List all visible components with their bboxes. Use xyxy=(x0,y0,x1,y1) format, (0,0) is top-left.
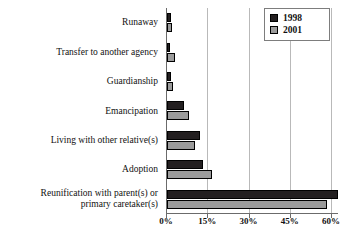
bar-2001 xyxy=(167,170,212,179)
legend-swatch-icon xyxy=(270,14,278,22)
legend-label: 1998 xyxy=(283,13,302,24)
category-label: Runaway xyxy=(122,17,158,28)
chart-legend: 19982001 xyxy=(264,8,330,41)
category-label-line: Reunification with parent(s) or xyxy=(41,188,158,199)
bar-group xyxy=(167,67,338,96)
axis-tick-label: 60% xyxy=(322,216,340,226)
bar-group xyxy=(167,126,338,155)
bar-group xyxy=(167,96,338,125)
axis-tick-label: 15% xyxy=(198,216,216,226)
bar-group xyxy=(167,185,338,214)
bar-1998 xyxy=(167,72,171,81)
bar-1998 xyxy=(167,13,171,22)
bar-2001 xyxy=(167,111,189,120)
category-label: Guardianship xyxy=(107,76,158,87)
category-axis-labels: RunawayTransfer to another agencyGuardia… xyxy=(0,8,162,214)
bar-2001 xyxy=(167,53,175,62)
bar-2001 xyxy=(167,200,327,209)
category-label: Emancipation xyxy=(105,106,158,117)
bar-1998 xyxy=(167,160,203,169)
legend-item: 1998 xyxy=(270,12,324,24)
bar-1998 xyxy=(167,190,338,199)
category-label-line: Emancipation xyxy=(105,106,158,117)
axis-tick-label: 30% xyxy=(240,216,258,226)
bar-group xyxy=(167,155,338,184)
value-axis-tick-labels: 0%15%30%45%60% xyxy=(166,216,338,232)
category-label-line: primary caretaker(s) xyxy=(41,199,158,210)
category-label: Adoption xyxy=(122,164,158,175)
bar-1998 xyxy=(167,101,184,110)
category-label-line: Transfer to another agency xyxy=(56,47,158,58)
category-label-line: Guardianship xyxy=(107,76,158,87)
value-axis-line xyxy=(166,213,338,214)
bar-1998 xyxy=(167,131,200,140)
bar-2001 xyxy=(167,23,172,32)
axis-tick-label: 0% xyxy=(159,216,173,226)
bar-2001 xyxy=(167,82,173,91)
category-label-line: Runaway xyxy=(122,17,158,28)
legend-swatch-icon xyxy=(270,26,278,34)
bar-chart: RunawayTransfer to another agencyGuardia… xyxy=(0,0,343,239)
bar-1998 xyxy=(167,43,170,52)
axis-tick-label: 45% xyxy=(281,216,299,226)
category-label: Living with other relative(s) xyxy=(51,135,158,146)
legend-item: 2001 xyxy=(270,24,324,36)
category-label-line: Adoption xyxy=(122,164,158,175)
bar-group xyxy=(167,37,338,66)
category-label-line: Living with other relative(s) xyxy=(51,135,158,146)
category-label: Reunification with parent(s) orprimary c… xyxy=(41,188,158,210)
value-axis-zero-line xyxy=(166,8,167,214)
bar-2001 xyxy=(167,141,195,150)
category-label: Transfer to another agency xyxy=(56,47,158,58)
legend-label: 2001 xyxy=(283,25,302,36)
